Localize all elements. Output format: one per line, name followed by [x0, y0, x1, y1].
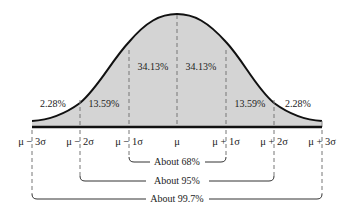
tick-label: μ − 1σ	[115, 136, 143, 147]
tick-label: μ	[174, 136, 180, 147]
tick-label: μ + 1σ	[212, 136, 240, 147]
region-label: 13.59%	[89, 98, 120, 109]
region-label: 34.13%	[186, 61, 217, 72]
region-label: 34.13%	[138, 61, 169, 72]
bracket-label-997: About 99.7%	[150, 193, 203, 204]
normal-distribution-diagram: 2.28% 13.59% 34.13% 34.13% 13.59% 2.28% …	[0, 0, 349, 216]
tick-label: μ − 2σ	[66, 136, 94, 147]
region-label: 2.28%	[40, 98, 66, 109]
tick-label: μ + 3σ	[308, 136, 336, 147]
tick-label: μ − 3σ	[18, 136, 46, 147]
region-label: 13.59%	[235, 98, 266, 109]
region-label: 2.28%	[285, 98, 311, 109]
bracket-label-68: About 68%	[154, 156, 200, 167]
tick-label: μ + 2σ	[260, 136, 288, 147]
bracket-label-95: About 95%	[154, 175, 200, 186]
